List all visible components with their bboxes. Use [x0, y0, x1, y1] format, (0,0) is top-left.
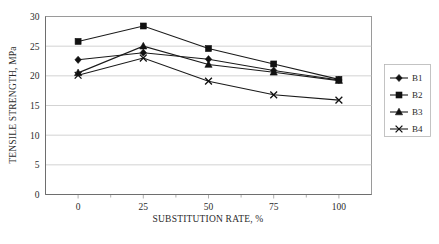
y-tick-label: 10	[30, 131, 40, 141]
x-tick-label: 0	[76, 202, 81, 212]
y-tick-label: 15	[30, 101, 40, 111]
data-point-b2	[271, 61, 277, 67]
y-tick-label: 30	[30, 12, 40, 22]
y-axis-title: TENSILE STRENGTH, MPa	[8, 46, 18, 164]
legend-box	[385, 65, 431, 137]
legend-label: B3	[412, 107, 423, 117]
data-point-b2	[140, 23, 146, 29]
x-tick-label: 75	[269, 202, 279, 212]
y-tick-label: 25	[30, 42, 40, 52]
x-tick-label: 25	[139, 202, 149, 212]
y-tick-label: 20	[30, 71, 40, 81]
figure-container: 051015202530 0255075100 TENSILE STRENGTH…	[0, 0, 439, 244]
x-tick-label: 50	[204, 202, 214, 212]
y-tick-label: 0	[35, 190, 40, 200]
legend-label: B4	[412, 124, 423, 134]
tensile-strength-line-chart: 051015202530 0255075100 TENSILE STRENGTH…	[0, 0, 439, 244]
legend-marker-b2	[396, 92, 402, 98]
legend-label: B2	[412, 90, 423, 100]
x-tick-label: 100	[332, 202, 347, 212]
y-tick-label: 5	[35, 160, 40, 170]
data-point-b2	[206, 46, 212, 52]
legend-label: B1	[412, 73, 423, 83]
data-point-b2	[75, 38, 81, 44]
legend: B1B2B3B4	[385, 65, 431, 137]
x-axis-title: SUBSTITUTION RATE, %	[153, 214, 264, 224]
